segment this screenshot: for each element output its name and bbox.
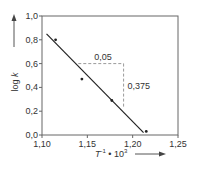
y-tick-label: 1,0 (25, 11, 38, 21)
slope-dx-label: 0,05 (94, 52, 112, 62)
x-axis-label-mid: • 10 (106, 149, 124, 159)
tick-labels: 1,101,151,201,250,00,20,40,60,81,0 (25, 11, 186, 149)
slope-triangle: 0,05 0,375 (78, 52, 150, 109)
y-tick-label: 0,2 (25, 106, 38, 116)
plot-frame (42, 16, 178, 135)
y-axis-label-k: k (10, 72, 20, 77)
x-axis-arrow (135, 152, 166, 157)
chart: 1,101,151,201,250,00,20,40,60,81,0 0,05 … (0, 0, 197, 174)
y-tick-label: 0,6 (25, 59, 38, 69)
data-point (110, 99, 113, 102)
y-axis-label: log k (10, 72, 20, 92)
y-tick-label: 0,0 (25, 130, 38, 140)
y-axis-arrow (12, 14, 17, 47)
x-tick-label: 1,25 (169, 139, 187, 149)
x-tick-label: 1,15 (79, 139, 97, 149)
slope-dy-label: 0,375 (128, 81, 151, 91)
data-point (54, 38, 57, 41)
data-point (80, 78, 83, 81)
y-axis-label-log: log (10, 77, 20, 92)
data-point (145, 130, 148, 133)
y-tick-label: 0,4 (25, 82, 38, 92)
y-tick-label: 0,8 (25, 35, 38, 45)
x-tick-label: 1,10 (33, 139, 51, 149)
x-axis-label: T-1 • 103 (95, 148, 128, 159)
ticks (39, 16, 178, 138)
